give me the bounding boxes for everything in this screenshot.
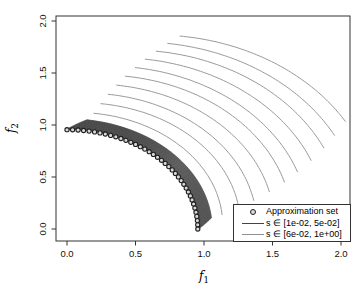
- legend: Approximation set s ∈ [1e-02, 5e-02] s ∈…: [233, 204, 351, 242]
- approx-point: [147, 150, 151, 154]
- plot-canvas: 0.00.51.01.52.00.00.51.01.52.0 f1 f2: [0, 0, 363, 295]
- approx-point: [134, 142, 138, 146]
- approx-point: [159, 158, 163, 162]
- x-tick-label: 1.5: [266, 248, 279, 259]
- approx-point: [163, 161, 167, 165]
- sparse-level-curve: [126, 76, 285, 182]
- approximation-set-points: [65, 128, 200, 231]
- figure: 0.00.51.01.52.00.00.51.01.52.0 f1 f2 App…: [0, 0, 363, 295]
- open-circle-marker-icon: [250, 209, 256, 215]
- x-tick-label: 2.0: [334, 248, 347, 259]
- y-axis-title: f2: [4, 123, 20, 134]
- approx-point: [196, 223, 200, 227]
- y-tick-label: 2.0: [37, 14, 48, 27]
- approx-point: [155, 155, 159, 159]
- legend-label: s ∈ [1e-02, 5e-02]: [266, 218, 340, 229]
- approx-point: [109, 133, 113, 137]
- legend-label: Approximation set: [266, 206, 338, 217]
- approx-point: [124, 138, 128, 142]
- legend-row-approximation-set: Approximation set: [240, 206, 350, 217]
- dense-band-series: [67, 120, 211, 229]
- approx-point: [103, 132, 107, 136]
- y-tick-label: 1.0: [37, 118, 48, 131]
- approx-point: [194, 210, 198, 214]
- approx-point: [65, 128, 69, 132]
- approx-point: [119, 136, 123, 140]
- approx-point: [195, 219, 199, 223]
- dark-line-sample-icon: [242, 223, 264, 224]
- approx-point: [195, 214, 199, 218]
- legend-symbol-cell: [240, 209, 266, 215]
- approx-point: [93, 130, 97, 134]
- approx-point: [138, 145, 142, 149]
- band-curve: [72, 127, 202, 227]
- gray-line-sample-icon: [242, 234, 264, 235]
- x-tick-label: 1.0: [197, 248, 210, 259]
- approx-point: [129, 140, 133, 144]
- approx-point: [114, 135, 118, 139]
- y-tick-label: 0.0: [37, 222, 48, 235]
- approx-point: [82, 128, 86, 132]
- approx-point: [87, 129, 91, 133]
- approx-point: [143, 147, 147, 151]
- legend-symbol-cell: [240, 234, 266, 235]
- approx-point: [170, 168, 174, 172]
- approx-point: [193, 206, 197, 210]
- x-tick-label: 0.5: [129, 248, 142, 259]
- approx-point: [98, 131, 102, 135]
- legend-symbol-cell: [240, 223, 266, 224]
- approx-point: [167, 165, 171, 169]
- legend-row-s-large: s ∈ [6e-02, 1e+00]: [240, 229, 350, 240]
- approx-point: [71, 128, 75, 132]
- approx-point: [76, 128, 80, 132]
- sparse-arcs-series: [94, 36, 345, 215]
- sparse-level-curve: [180, 36, 345, 121]
- y-tick-label: 0.5: [37, 170, 48, 183]
- x-tick-label: 0.0: [60, 248, 73, 259]
- legend-row-s-small: s ∈ [1e-02, 5e-02]: [240, 218, 350, 229]
- approx-point: [196, 227, 200, 231]
- x-axis-title: f1: [198, 269, 209, 285]
- legend-label: s ∈ [6e-02, 1e+00]: [266, 229, 342, 240]
- approx-point: [151, 152, 155, 156]
- y-tick-label: 1.5: [37, 66, 48, 79]
